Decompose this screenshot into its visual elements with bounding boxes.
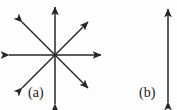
- panel-label-a: (a): [28, 86, 44, 100]
- figure-container: (a) (b): [0, 0, 177, 110]
- panel-label-b: (b): [139, 86, 155, 100]
- panel-a-arrow-group: [9, 7, 101, 104]
